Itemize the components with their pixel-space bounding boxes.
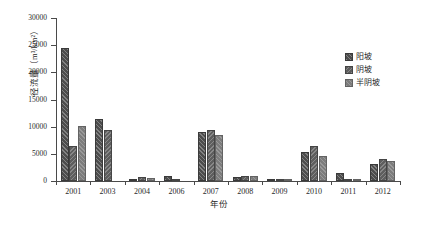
x-axis-tick [366, 181, 367, 185]
legend-swatch-icon [345, 66, 353, 74]
y-axis-tick-label: 30000 [28, 14, 47, 22]
x-axis-tick [159, 181, 160, 185]
legend-label: 阴坡 [356, 63, 372, 76]
x-axis-tick [400, 181, 401, 185]
y-axis-tick [51, 45, 56, 46]
y-axis-line [56, 18, 57, 181]
bar [301, 152, 309, 181]
x-axis-tick-label: 2012 [358, 187, 408, 196]
x-axis-tick [297, 181, 298, 185]
legend-label: 阳坡 [356, 50, 372, 63]
y-axis-tick [51, 72, 56, 73]
x-axis-tick [331, 181, 332, 185]
x-axis-tick [194, 181, 195, 185]
x-axis-tick [90, 181, 91, 185]
y-axis-tick [51, 154, 56, 155]
bar [69, 146, 77, 181]
bar [198, 132, 206, 181]
x-axis-tick [56, 181, 57, 185]
plot-area [56, 18, 400, 181]
legend-swatch-icon [345, 79, 353, 87]
y-axis-tick-label: 10000 [28, 123, 47, 131]
y-axis-tick [51, 127, 56, 128]
bar [61, 48, 69, 181]
bar [215, 135, 223, 181]
bar [207, 130, 215, 181]
x-axis-title: 年份 [0, 199, 437, 209]
legend-label: 半阴坡 [356, 76, 380, 89]
bar [95, 119, 103, 181]
legend-item[interactable]: 半阴坡 [345, 76, 380, 89]
x-axis-tick [228, 181, 229, 185]
legend-item[interactable]: 阳坡 [345, 50, 380, 63]
bar [104, 130, 112, 181]
bar [379, 159, 387, 181]
legend-swatch-icon [345, 53, 353, 61]
x-axis-tick [262, 181, 263, 185]
y-axis-tick-label: 15000 [28, 96, 47, 104]
bar [336, 173, 344, 181]
y-axis-tick [51, 100, 56, 101]
bar [370, 164, 378, 181]
chart-legend: 阳坡 阴坡 半阴坡 [345, 50, 380, 89]
y-axis-tick-label: 25000 [28, 41, 47, 49]
bar [319, 156, 327, 181]
y-axis-tick-label: 5000 [32, 150, 47, 158]
y-axis-tick-label: 0 [43, 177, 47, 185]
runoff-bar-chart-figure: 径流量（m³/km²） 年份 阳坡 阴坡 半阴坡 050001000015000… [0, 0, 437, 227]
bar [387, 161, 395, 181]
x-axis-tick [125, 181, 126, 185]
y-axis-tick [51, 18, 56, 19]
bar [78, 126, 86, 181]
y-axis-tick-label: 20000 [28, 68, 47, 76]
legend-item[interactable]: 阴坡 [345, 63, 380, 76]
bar [310, 146, 318, 181]
